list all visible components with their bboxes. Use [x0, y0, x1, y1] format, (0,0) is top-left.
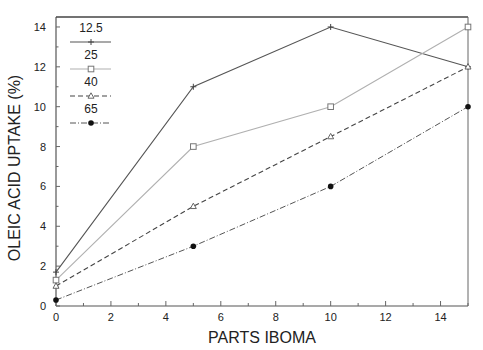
- series-65: [53, 104, 471, 303]
- x-axis-title: PARTS IBOMA: [208, 329, 316, 346]
- legend-label: 65: [84, 102, 98, 116]
- x-tick-label: 10: [325, 311, 337, 323]
- circle-marker-icon: [328, 184, 334, 190]
- legend-item-65: 65: [70, 102, 111, 126]
- y-tick-label: 12: [34, 61, 46, 73]
- y-tick-label: 0: [40, 300, 46, 312]
- circle-marker-icon: [88, 120, 94, 126]
- legend-item-40: 40: [70, 75, 111, 98]
- y-tick-label: 8: [40, 141, 46, 153]
- x-tick-label: 8: [273, 311, 279, 323]
- y-tick-label: 10: [34, 101, 46, 113]
- y-tick-label: 2: [40, 260, 46, 272]
- x-tick-label: 4: [163, 311, 169, 323]
- x-tick-label: 0: [53, 311, 59, 323]
- series-25: [53, 24, 471, 283]
- legend-label: 40: [84, 75, 98, 89]
- legend-item-25: 25: [70, 48, 111, 72]
- legend: 12.5254065: [70, 21, 111, 126]
- legend-item-12.5: 12.5: [70, 21, 111, 45]
- x-tick-label: 6: [218, 311, 224, 323]
- circle-marker-icon: [53, 297, 59, 303]
- x-axis-ticks: 02468101214: [53, 301, 468, 323]
- data-series: [53, 24, 471, 303]
- square-marker-icon: [191, 144, 197, 150]
- x-tick-label: 12: [379, 311, 391, 323]
- circle-marker-icon: [465, 104, 471, 110]
- x-tick-label: 2: [108, 311, 114, 323]
- plus-marker-icon: [328, 24, 334, 30]
- plus-marker-icon: [88, 39, 94, 45]
- series-40: [53, 64, 471, 289]
- square-marker-icon: [328, 104, 334, 110]
- y-tick-label: 14: [34, 21, 46, 33]
- x-tick-label: 14: [434, 311, 446, 323]
- square-marker-icon: [465, 24, 471, 30]
- legend-label: 25: [84, 48, 98, 62]
- circle-marker-icon: [191, 243, 197, 249]
- y-tick-label: 4: [40, 220, 46, 232]
- plot-frame: [56, 17, 468, 306]
- y-axis-title: OLEIC ACID UPTAKE (%): [6, 75, 23, 261]
- y-tick-label: 6: [40, 180, 46, 192]
- square-marker-icon: [88, 66, 94, 72]
- legend-label: 12.5: [79, 21, 103, 35]
- line-chart: 02468101214 02468101214 12.5254065 PARTS…: [0, 0, 483, 350]
